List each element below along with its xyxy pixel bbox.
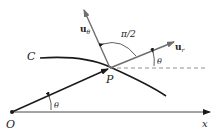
theta-label-origin: θ — [54, 101, 59, 110]
theta-arc-at-p — [153, 52, 154, 66]
curve-c — [40, 57, 166, 96]
x-axis-label: x — [202, 118, 208, 129]
right-angle-arc — [103, 43, 136, 57]
theta-label-p: θ — [157, 57, 162, 66]
theta-arc-at-origin — [49, 96, 51, 110]
right-angle-label: π/2 — [120, 29, 136, 39]
curve-label: C — [27, 50, 36, 63]
u-r-label: ur — [175, 42, 186, 53]
u-r-vector — [110, 42, 174, 68]
point-label: P — [105, 73, 114, 86]
origin-label: O — [6, 118, 15, 131]
u-theta-label: uθ — [80, 24, 91, 35]
position-vector — [12, 69, 108, 112]
polar-coordinates-diagram: C O P x θ θ π/2 uθ ur — [0, 0, 219, 138]
